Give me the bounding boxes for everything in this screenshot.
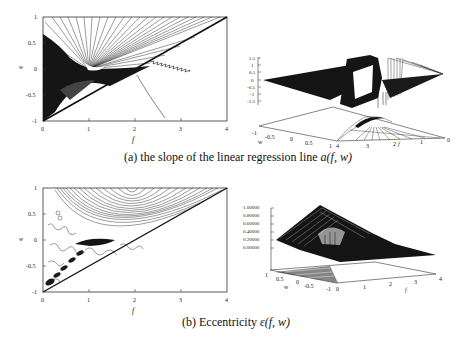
w-tick: 0 [296,279,299,285]
z-tick: 0.40000 [243,229,259,235]
w-tick: 0.5 [276,276,284,282]
w-tick: -1 [326,286,331,292]
w-tick: -0.5 [304,283,314,289]
z-tick: 0.60000 [243,221,259,227]
f-tick: 0 [336,286,339,292]
f-tick: 1 [363,284,366,290]
z-tick: 0.00000 [243,245,259,251]
f-tick: 4 [439,276,442,282]
f-tick: 2 [389,281,392,287]
panel-b-surface-graphic [0,0,465,351]
z-tick: 0.80000 [243,213,259,219]
caption-b: (b) Eccentricity ε(f, w) [182,315,290,330]
w-axis-label: w [284,284,288,290]
caption-b-math: ε(f, w) [260,315,290,329]
z-tick: 0.20000 [243,237,259,243]
f-axis-label: f [405,287,407,293]
caption-b-text: (b) Eccentricity [182,315,260,329]
f-tick: 3 [414,279,417,285]
z-tick: 1.00000 [243,205,259,211]
w-tick: 1 [265,272,268,278]
